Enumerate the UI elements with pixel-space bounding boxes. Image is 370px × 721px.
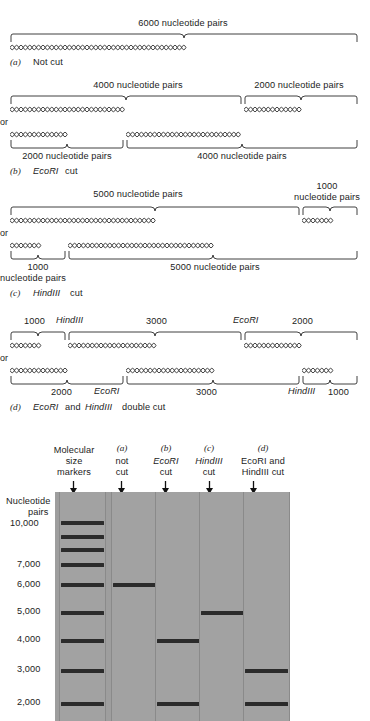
panel-c-bottom-label-5000: 5000 nucleotide pairs xyxy=(120,263,310,273)
panel-b-brace-bottom-left xyxy=(10,140,124,149)
panel-c-caption-enzyme: HindIII xyxy=(33,289,60,299)
panel-b-caption-rest: cut xyxy=(65,167,78,177)
gel-band-b-2000 xyxy=(157,702,200,706)
panel-c-caption-rest: cut xyxy=(70,289,83,299)
gel-band-markers-6000 xyxy=(61,583,104,587)
restriction-digest-figure: 6000 nucleotide pairs (a) Not cut 4000 n… xyxy=(0,0,370,721)
gel-axis-title-line1: Nucleotide xyxy=(6,497,50,507)
panel-c-id: (c) xyxy=(10,289,20,299)
panel-c-bottom-label-1000-line1: 1000 xyxy=(8,263,68,273)
panel-a-dna-strand xyxy=(10,42,358,53)
panel-c-dna-bottom-fragment-5000 xyxy=(68,240,358,251)
panel-d-brace-top-1000 xyxy=(10,331,66,340)
gel-tick-7000: 7,000 xyxy=(17,560,41,570)
panel-c-top-label-1000-line1: 1000 xyxy=(290,182,364,192)
panel-d-brace-bottom-3000 xyxy=(126,376,300,385)
panel-b-bottom-label-2000: 2000 nucleotide pairs xyxy=(10,152,124,162)
gel-header-b-line1: EcoRI xyxy=(144,457,188,467)
panel-c-top-label-1000-line2: nucleotide pairs xyxy=(290,193,364,203)
panel-c-brace-bottom-left xyxy=(10,251,66,260)
panel-b-dna-top-fragment-4000 xyxy=(10,104,242,115)
panel-b-top-label-2000: 2000 nucleotide pairs xyxy=(235,81,363,91)
panel-b-brace-bottom-right xyxy=(126,140,358,149)
gel-header-c-line1: HindIII xyxy=(186,457,232,467)
gel-header-c-id: (c) xyxy=(186,444,232,454)
gel-band-markers-3000 xyxy=(61,669,104,673)
gel-band-markers-9000 xyxy=(61,535,104,539)
gel-header-d-id: (d) xyxy=(228,444,298,454)
panel-b-or-label: or xyxy=(0,118,8,127)
gel-band-markers-5000 xyxy=(61,611,104,615)
panel-d-dna-bottom-fragment-1000 xyxy=(302,365,358,376)
gel-band-c-5000 xyxy=(201,611,244,615)
panel-d-caption-part2: and xyxy=(65,403,81,413)
gel-header-b-line2: cut xyxy=(144,468,188,478)
gel-lane-not-cut xyxy=(112,492,157,721)
panel-c-dna-top-fragment-1000 xyxy=(302,215,358,226)
panel-b-dna-bottom-fragment-4000 xyxy=(126,129,358,140)
panel-a-top-label-6000: 6000 nucleotide pairs xyxy=(88,19,278,29)
panel-b-brace-top-left xyxy=(10,95,242,104)
gel-lane-ecori-cut xyxy=(156,492,201,721)
gel-header-a-id: (a) xyxy=(105,444,139,454)
gel-axis-title-line2: pairs xyxy=(28,508,48,518)
gel-tick-2000: 2,000 xyxy=(17,698,41,708)
panel-d-brace-top-3000 xyxy=(68,331,242,340)
gel-tick-6000: 6,000 xyxy=(17,580,41,590)
gel-lane-molecular-size-markers xyxy=(60,492,105,721)
panel-c-or-label: or xyxy=(0,229,8,238)
gel-tick-3000: 3,000 xyxy=(17,665,41,675)
panel-b-bottom-label-4000: 4000 nucleotide pairs xyxy=(126,152,358,162)
gel-header-a-line1: not xyxy=(105,457,139,467)
gel-band-a-6000 xyxy=(113,583,156,587)
panel-d-top-label-2000: 2000 xyxy=(292,317,313,327)
panel-d-bottom-label-3000: 3000 xyxy=(196,388,217,398)
panel-a-id: (a) xyxy=(10,58,21,68)
panel-d-top-label-ecori: EcoRI xyxy=(233,316,259,326)
gel-lane-hindiii-cut xyxy=(200,492,245,721)
panel-d-dna-bottom-fragment-2000 xyxy=(10,365,124,376)
gel-header-markers-line3: markers xyxy=(44,468,104,478)
gel-band-b-4000 xyxy=(157,639,200,643)
panel-d-dna-top-fragment-1000 xyxy=(10,340,66,351)
gel-header-b-id: (b) xyxy=(144,444,188,454)
panel-c-brace-top-left xyxy=(10,206,300,215)
panel-c-top-label-5000: 5000 nucleotide pairs xyxy=(28,190,248,200)
gel-band-markers-8000 xyxy=(61,548,104,552)
panel-a-brace xyxy=(10,33,358,42)
panel-d-brace-bottom-2000 xyxy=(10,376,124,385)
panel-c-bottom-label-1000-line2: nucleotide pairs xyxy=(0,274,66,284)
panel-d-caption-part1: EcoRI xyxy=(33,403,59,413)
panel-d-bottom-label-ecori: EcoRI xyxy=(94,387,120,397)
gel-header-a-line2: cut xyxy=(105,468,139,478)
panel-c-dna-top-fragment-5000 xyxy=(10,215,300,226)
panel-d-id: (d) xyxy=(10,403,21,413)
gel-band-markers-2000 xyxy=(61,702,104,706)
panel-d-top-label-3000: 3000 xyxy=(146,317,167,327)
gel-header-d-line2: HindIII cut xyxy=(228,468,298,478)
panel-c-brace-bottom-right xyxy=(68,251,358,260)
gel-band-d-2000 xyxy=(245,702,288,706)
panel-d-dna-bottom-fragment-3000 xyxy=(126,365,300,376)
gel-tick-5000: 5,000 xyxy=(17,607,41,617)
panel-d-bottom-label-hindiii: HindIII xyxy=(288,387,315,397)
panel-d-caption-part4: double cut xyxy=(122,403,165,413)
panel-b-brace-top-right xyxy=(244,95,358,104)
panel-d-top-label-1000: 1000 xyxy=(24,317,45,327)
panel-c-brace-top-right xyxy=(302,206,358,215)
panel-b-id: (b) xyxy=(10,167,21,177)
gel-band-d-3000 xyxy=(245,669,288,673)
gel-band-markers-4000 xyxy=(61,639,104,643)
panel-b-dna-bottom-fragment-2000 xyxy=(10,129,124,140)
panel-d-brace-top-2000 xyxy=(244,331,358,340)
gel-band-markers-7000 xyxy=(61,563,104,567)
gel-band-markers-10000 xyxy=(61,521,104,525)
panel-d-top-label-hindiii: HindIII xyxy=(56,316,83,326)
gel-header-markers-line1: Molecular xyxy=(44,446,104,456)
panel-d-caption-part3: HindIII xyxy=(85,403,112,413)
gel-header-markers-line2: size xyxy=(44,457,104,467)
gel-tick-10000: 10,000 xyxy=(10,519,39,529)
panel-b-dna-top-fragment-2000 xyxy=(244,104,358,115)
gel-header-d-line1: EcoRI and xyxy=(228,457,298,467)
panel-d-bottom-label-2000: 2000 xyxy=(51,388,72,398)
